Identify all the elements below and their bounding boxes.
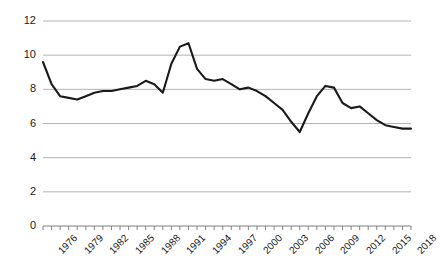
series-line <box>43 43 411 132</box>
x-axis-ticks <box>43 226 411 230</box>
y-axis-tick-label: 2 <box>10 186 36 197</box>
y-axis-tick-label: 0 <box>10 220 36 231</box>
chart-plot-area <box>0 0 440 259</box>
y-axis-tick-label: 6 <box>10 118 36 129</box>
y-axis-tick-label: 10 <box>10 49 36 60</box>
y-axis-tick-label: 12 <box>10 15 36 26</box>
y-axis-tick-label: 8 <box>10 83 36 94</box>
line-chart: 024681012 197619791982198519881991199419… <box>0 0 440 259</box>
data-series-group <box>43 43 411 132</box>
y-axis-tick-label: 4 <box>10 152 36 163</box>
